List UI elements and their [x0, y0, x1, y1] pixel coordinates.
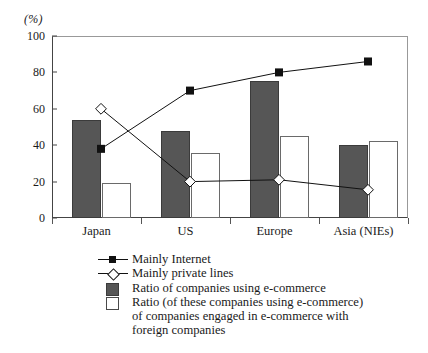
legend-item: Ratio of companies using e-commerce: [98, 281, 363, 295]
legend-item: Mainly private lines: [98, 266, 363, 280]
legend-item-label: Ratio (of these companies using e-commer…: [132, 295, 363, 309]
marker-open-diamond: [274, 174, 285, 185]
line-path-mainly-internet: [101, 61, 368, 148]
legend-line-open-diamond-icon: [98, 266, 128, 280]
legend-item: Ratio (of these companies using e-commer…: [98, 295, 363, 309]
legend-line-filled-square-icon: [98, 252, 128, 266]
chart-container: (%) 100806040200 JapanUSEuropeAsia (NIEs…: [0, 0, 428, 353]
legend-dark-box-icon: [98, 281, 128, 295]
marker-filled-square: [97, 145, 105, 153]
marker-filled-square: [186, 87, 194, 95]
legend-item-label-continued: foreign companies: [98, 323, 363, 337]
legend-item-label: Ratio of companies using e-commerce: [132, 281, 363, 295]
legend-item-label-continued: of companies engaged in e-commerce with: [98, 309, 363, 323]
marker-open-diamond: [185, 176, 196, 187]
legend-item-label: Mainly private lines: [132, 266, 363, 280]
chart-legend: Mainly InternetMainly private linesRatio…: [98, 252, 363, 338]
legend-item-label: Mainly Internet: [132, 252, 363, 266]
marker-open-diamond: [96, 103, 107, 114]
marker-open-diamond: [363, 184, 374, 195]
line-path-mainly-private-lines: [101, 109, 368, 190]
marker-filled-square: [275, 68, 283, 76]
legend-item: Mainly Internet: [98, 252, 363, 266]
legend-open-box-icon: [98, 295, 128, 309]
marker-filled-square: [364, 57, 372, 65]
